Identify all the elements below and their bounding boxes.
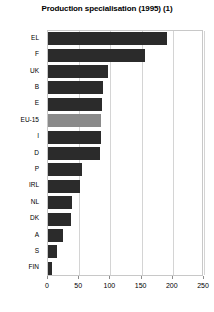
y-axis-label-nl: NL xyxy=(31,198,39,206)
bar-uk xyxy=(48,65,108,78)
plot-area xyxy=(47,30,203,276)
y-axis-label-s: S xyxy=(35,247,39,255)
x-tick-200 xyxy=(172,276,173,279)
y-axis-label-b: B xyxy=(35,83,39,91)
x-axis-label-200: 200 xyxy=(166,281,178,290)
bar-row xyxy=(48,113,204,129)
chart-figure: Production specialisation (1995) (1) ELF… xyxy=(0,0,214,312)
x-axis-label-250: 250 xyxy=(197,281,209,290)
bar-row xyxy=(48,228,204,244)
bar-s xyxy=(48,245,57,258)
bar-row xyxy=(48,179,204,195)
x-axis-label-50: 50 xyxy=(74,281,82,290)
bar-row xyxy=(48,48,204,64)
y-axis-label-e: E xyxy=(35,99,39,107)
bar-row xyxy=(48,212,204,228)
x-tick-150 xyxy=(141,276,142,279)
y-axis-label-a: A xyxy=(35,231,39,239)
bar-row xyxy=(48,97,204,113)
bar-fin xyxy=(48,262,52,275)
y-axis-label-f: F xyxy=(35,50,39,58)
bar-eu-15 xyxy=(48,114,101,127)
x-tick-250 xyxy=(203,276,204,279)
y-axis-label-p: P xyxy=(35,165,39,173)
bar-row xyxy=(48,80,204,96)
y-axis-labels: ELFUKBEEU-15IDPIRLNLDKASFIN xyxy=(0,30,44,276)
y-axis-label-d: D xyxy=(34,149,39,157)
x-axis-label-0: 0 xyxy=(45,281,49,290)
y-axis-label-el: EL xyxy=(31,34,39,42)
chart-title: Production specialisation (1995) (1) xyxy=(0,4,214,14)
x-axis-labels: 050100150200250 xyxy=(0,281,214,295)
y-axis-label-irl: IRL xyxy=(29,181,39,189)
bar-row xyxy=(48,195,204,211)
bar-dk xyxy=(48,213,71,226)
x-axis-label-150: 150 xyxy=(135,281,147,290)
x-tick-100 xyxy=(109,276,110,279)
x-axis-label-100: 100 xyxy=(104,281,116,290)
bar-b xyxy=(48,81,103,94)
bar-row xyxy=(48,244,204,260)
bar-e xyxy=(48,98,102,111)
bar-row xyxy=(48,146,204,162)
bar-nl xyxy=(48,196,72,209)
bars-layer xyxy=(48,31,202,275)
y-axis-label-i: I xyxy=(37,132,39,140)
bar-p xyxy=(48,163,82,176)
bar-irl xyxy=(48,180,80,193)
y-axis-label-uk: UK xyxy=(30,67,39,75)
x-tick-0 xyxy=(47,276,48,279)
y-axis-label-dk: DK xyxy=(30,214,39,222)
bar-el xyxy=(48,32,167,45)
gridline-250 xyxy=(204,31,205,275)
bar-row xyxy=(48,130,204,146)
bar-row xyxy=(48,64,204,80)
bar-row xyxy=(48,261,204,277)
x-tick-50 xyxy=(78,276,79,279)
bar-i xyxy=(48,131,101,144)
bar-d xyxy=(48,147,100,160)
y-axis-label-fin: FIN xyxy=(29,263,39,271)
bar-row xyxy=(48,31,204,47)
bar-a xyxy=(48,229,63,242)
bar-row xyxy=(48,162,204,178)
bar-f xyxy=(48,49,145,62)
y-axis-label-eu-15: EU-15 xyxy=(21,116,39,124)
